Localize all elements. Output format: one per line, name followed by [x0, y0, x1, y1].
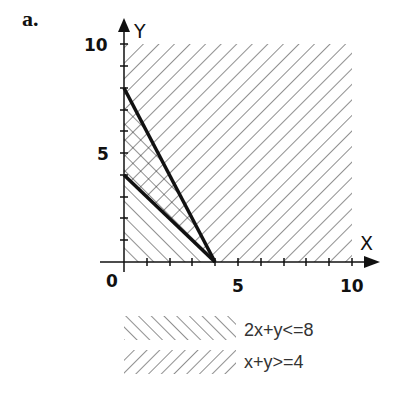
- y-axis-label: Y: [133, 20, 146, 42]
- x-axis-arrow-icon: [364, 256, 380, 268]
- legend-label-x-plus-y: x+y>=4: [244, 352, 304, 372]
- chart-canvas: 10 5 0 5 10 Y X 2x+y<=8 x+y>=4: [0, 0, 394, 396]
- x-tick-label-5: 5: [232, 276, 244, 296]
- x-tick-label-10: 10: [340, 276, 364, 296]
- legend-swatch-back-hatch: [124, 350, 236, 374]
- legend-swatch-forward-hatch: [124, 316, 236, 340]
- legend-label-2x-plus-y: 2x+y<=8: [244, 320, 314, 340]
- y-axis-arrow-icon: [118, 18, 130, 32]
- y-tick-label-10: 10: [84, 35, 108, 55]
- legend: 2x+y<=8 x+y>=4: [124, 316, 314, 374]
- y-tick-label-5: 5: [97, 144, 109, 164]
- x-axis-label: X: [360, 232, 373, 254]
- x-tick-label-0: 0: [106, 271, 118, 291]
